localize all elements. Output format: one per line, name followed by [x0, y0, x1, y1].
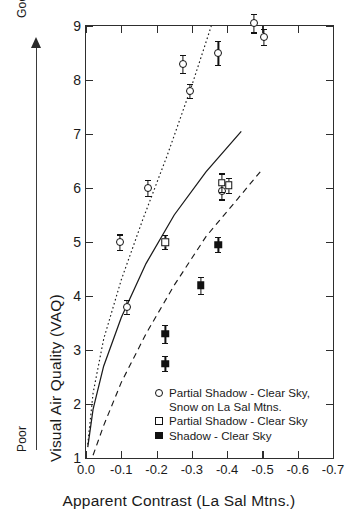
error-bar-cap-top	[187, 84, 193, 85]
marker-filled-square	[197, 281, 205, 289]
y-tick-right	[326, 458, 333, 459]
marker-filled-square	[215, 241, 223, 249]
error-bar-cap-bottom	[180, 73, 186, 74]
error-bar-cap-bottom	[117, 250, 123, 251]
error-bar-cap-bottom	[145, 196, 151, 197]
error-bar-cap-bottom	[162, 343, 168, 344]
good-label: Good	[15, 0, 29, 18]
y-tick-label: 2	[73, 396, 81, 412]
error-bar-cap-bottom	[187, 98, 193, 99]
error-bar-cap-top	[215, 41, 221, 42]
quality-axis-line	[36, 46, 37, 450]
marker-open-circle	[116, 238, 124, 246]
marker-open-circle	[144, 184, 152, 192]
quality-direction-axis	[26, 22, 48, 452]
error-bar-cap-top	[162, 325, 168, 326]
error-bar-cap-bottom	[162, 249, 168, 250]
error-bar-cap-bottom	[261, 45, 267, 46]
error-bar-cap-bottom	[198, 294, 204, 295]
error-bar-cap-top	[162, 356, 168, 357]
x-tick	[333, 451, 334, 458]
x-tick-label: -0.4	[216, 462, 238, 477]
y-tick	[86, 458, 93, 459]
error-bar-cap-bottom	[251, 32, 257, 33]
error-bar-cap-bottom	[219, 199, 225, 200]
poor-label: Poor	[15, 426, 29, 452]
x-tick-label: -0.1	[110, 462, 132, 477]
error-bar-cap-bottom	[226, 193, 232, 194]
legend-label: Partial Shadow - Clear Sky, Snow on La S…	[169, 386, 310, 413]
error-bar-cap-top	[162, 235, 168, 236]
x-tick-label: -0.7	[322, 462, 344, 477]
error-bar-cap-top	[226, 178, 232, 179]
y-tick-label: 3	[73, 342, 81, 358]
legend-symbol-open-square	[155, 414, 169, 428]
marker-filled-square	[162, 360, 170, 368]
legend-label: Shadow - Clear Sky	[169, 429, 271, 443]
error-bar-cap-top	[117, 234, 123, 235]
marker-open-square	[225, 182, 233, 190]
error-bar-cap-top	[261, 29, 267, 30]
x-tick-label: -0.2	[145, 462, 167, 477]
marker-open-circle	[260, 33, 268, 41]
error-bar-cap-top	[198, 277, 204, 278]
x-tick-top	[333, 26, 334, 33]
x-axis-title: Apparent Contrast (La Sal Mtns.)	[0, 492, 358, 510]
error-bar-cap-bottom	[162, 371, 168, 372]
error-bar-cap-bottom	[215, 252, 221, 253]
x-tick-label: 0.0	[77, 462, 95, 477]
arrow-up-icon	[31, 37, 41, 48]
error-bar-cap-top	[180, 55, 186, 56]
legend-item: Partial Shadow - Clear Sky	[155, 414, 310, 428]
y-tick-label: 5	[73, 234, 81, 250]
y-tick-label: 6	[73, 180, 81, 196]
marker-open-circle	[214, 49, 222, 57]
error-bar-cap-top	[215, 237, 221, 238]
x-tick-label: -0.3	[181, 462, 203, 477]
error-bar-cap-top	[251, 14, 257, 15]
y-tick-label: 7	[73, 126, 81, 142]
y-tick-label: 4	[73, 288, 81, 304]
error-bar-cap-bottom	[215, 65, 221, 66]
y-axis-title: Visual Air Quality (VAQ)	[47, 294, 65, 462]
y-tick-label: 9	[73, 18, 81, 34]
legend-symbol-open-circle	[155, 386, 169, 400]
marker-open-circle	[250, 19, 258, 27]
x-tick-label: -0.6	[287, 462, 309, 477]
error-bar-cap-top	[124, 300, 130, 301]
marker-open-circle	[179, 60, 187, 68]
marker-open-circle	[186, 87, 194, 95]
legend-item: Shadow - Clear Sky	[155, 429, 310, 443]
marker-open-circle	[123, 303, 131, 311]
marker-open-square	[162, 238, 170, 246]
marker-filled-square	[162, 330, 170, 338]
error-bar-cap-bottom	[219, 192, 225, 193]
chart-legend: Partial Shadow - Clear Sky, Snow on La S…	[155, 386, 310, 443]
x-tick-label: -0.5	[251, 462, 273, 477]
legend-item: Partial Shadow - Clear Sky, Snow on La S…	[155, 386, 310, 413]
y-tick-label: 8	[73, 72, 81, 88]
error-bar-cap-bottom	[124, 314, 130, 315]
error-bar-cap-top	[145, 180, 151, 181]
error-bar-cap-top	[219, 173, 225, 174]
legend-symbol-filled-square	[155, 429, 169, 443]
legend-label: Partial Shadow - Clear Sky	[169, 414, 308, 428]
